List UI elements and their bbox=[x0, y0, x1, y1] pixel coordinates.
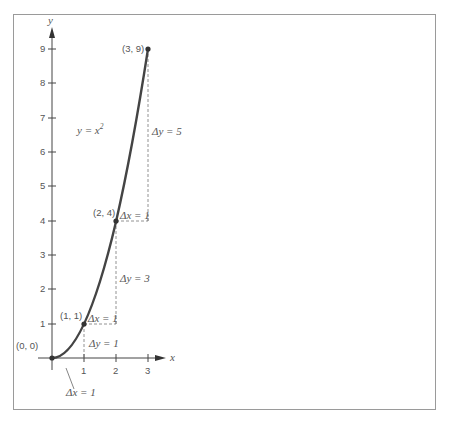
annotation-dy-0-1: Δy = 1 bbox=[88, 337, 119, 349]
y-axis-label: y bbox=[47, 14, 53, 26]
tick-label-y2: 2 bbox=[40, 283, 45, 294]
tick-label-y7: 7 bbox=[40, 112, 45, 123]
point-0-0 bbox=[49, 355, 54, 360]
label-point-1-1: (1, 1) bbox=[60, 310, 82, 321]
tick-label-x1: 1 bbox=[81, 365, 86, 376]
tick-label-y5: 5 bbox=[40, 180, 45, 191]
tick-label-y6: 6 bbox=[40, 146, 45, 157]
tick-label-y1: 1 bbox=[40, 318, 45, 329]
label-point-3-9: (3, 9) bbox=[122, 43, 144, 54]
tick-label-y8: 8 bbox=[40, 77, 45, 88]
point-1-1 bbox=[81, 321, 86, 326]
annotation-dx-1-2: Δx = 1 bbox=[87, 312, 118, 324]
x-tick-labels: 1 2 3 bbox=[81, 365, 150, 376]
annotation-dx-2-3: Δx = 1 bbox=[119, 209, 150, 221]
x-axis-arrow-icon bbox=[155, 355, 166, 361]
y-axis-arrow-icon bbox=[49, 27, 55, 38]
tick-label-x3: 3 bbox=[145, 365, 150, 376]
tick-label-x2: 2 bbox=[113, 365, 118, 376]
tick-label-y3: 3 bbox=[40, 249, 45, 260]
annotation-dy-1-4: Δy = 3 bbox=[119, 272, 150, 284]
annotation-dx-0-1: Δx = 1 bbox=[65, 386, 96, 398]
x-axis-label: x bbox=[169, 351, 175, 363]
label-point-0-0: (0, 0) bbox=[16, 340, 38, 351]
point-3-9 bbox=[145, 46, 150, 51]
label-point-2-4: (2, 4) bbox=[93, 207, 115, 218]
point-2-4 bbox=[113, 218, 118, 223]
tick-label-y9: 9 bbox=[40, 43, 45, 54]
tick-label-y4: 4 bbox=[40, 215, 45, 226]
y-tick-labels: 1 2 3 4 5 6 7 8 9 bbox=[40, 43, 45, 329]
equation-label: y = x2 bbox=[76, 122, 104, 136]
parabola-diagram: y x 1 2 3 4 5 6 7 8 9 1 2 3 bbox=[0, 0, 450, 427]
annotation-dy-4-9: Δy = 5 bbox=[151, 125, 182, 137]
